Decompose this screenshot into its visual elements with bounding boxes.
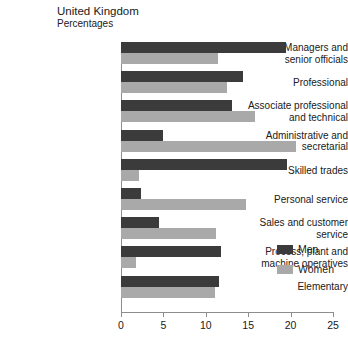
bar-men bbox=[121, 188, 141, 199]
bar-group bbox=[121, 188, 333, 210]
legend-item: Men bbox=[277, 243, 334, 255]
chart-title: United Kingdom bbox=[57, 4, 139, 18]
bar-women bbox=[121, 199, 246, 210]
chart-subtitle: Percentages bbox=[57, 18, 139, 30]
bar-group bbox=[121, 100, 333, 122]
bar-group bbox=[121, 217, 333, 239]
chart-legend: MenWomen bbox=[277, 243, 334, 283]
bar-women bbox=[121, 111, 255, 122]
x-tick-mark bbox=[206, 312, 207, 317]
x-tick-label: 15 bbox=[242, 319, 254, 331]
bar-men bbox=[121, 42, 286, 53]
bar-women bbox=[121, 141, 296, 152]
x-tick-label: 5 bbox=[160, 319, 166, 331]
bar-men bbox=[121, 159, 287, 170]
x-tick-label: 10 bbox=[200, 319, 212, 331]
legend-swatch-men bbox=[277, 245, 293, 254]
x-axis-line bbox=[121, 312, 334, 313]
bar-men bbox=[121, 276, 219, 287]
bar-men bbox=[121, 71, 243, 82]
bar-men bbox=[121, 130, 163, 141]
legend-label: Women bbox=[298, 263, 334, 275]
x-tick-mark bbox=[163, 312, 164, 317]
bar-women bbox=[121, 82, 227, 93]
bar-women bbox=[121, 257, 136, 268]
bar-group bbox=[121, 42, 333, 64]
x-tick-mark bbox=[248, 312, 249, 317]
bar-men bbox=[121, 217, 159, 228]
bar-men bbox=[121, 100, 232, 111]
bar-women bbox=[121, 228, 216, 239]
x-tick-mark bbox=[291, 312, 292, 317]
bar-group bbox=[121, 71, 333, 93]
bar-women bbox=[121, 53, 218, 64]
bar-men bbox=[121, 246, 221, 257]
x-tick-label: 25 bbox=[327, 319, 339, 331]
bar-chart: United Kingdom Percentages 0510152025 Ma… bbox=[0, 0, 348, 341]
title-block: United Kingdom Percentages bbox=[57, 4, 139, 30]
x-tick-label: 20 bbox=[285, 319, 297, 331]
bar-group bbox=[121, 159, 333, 181]
bar-women bbox=[121, 287, 215, 298]
bar-group bbox=[121, 130, 333, 152]
bar-women bbox=[121, 170, 139, 181]
x-tick-mark bbox=[121, 312, 122, 317]
legend-swatch-women bbox=[277, 265, 293, 274]
legend-label: Men bbox=[298, 243, 318, 255]
x-tick-mark bbox=[333, 312, 334, 317]
legend-item: Women bbox=[277, 263, 334, 275]
x-tick-label: 0 bbox=[118, 319, 124, 331]
